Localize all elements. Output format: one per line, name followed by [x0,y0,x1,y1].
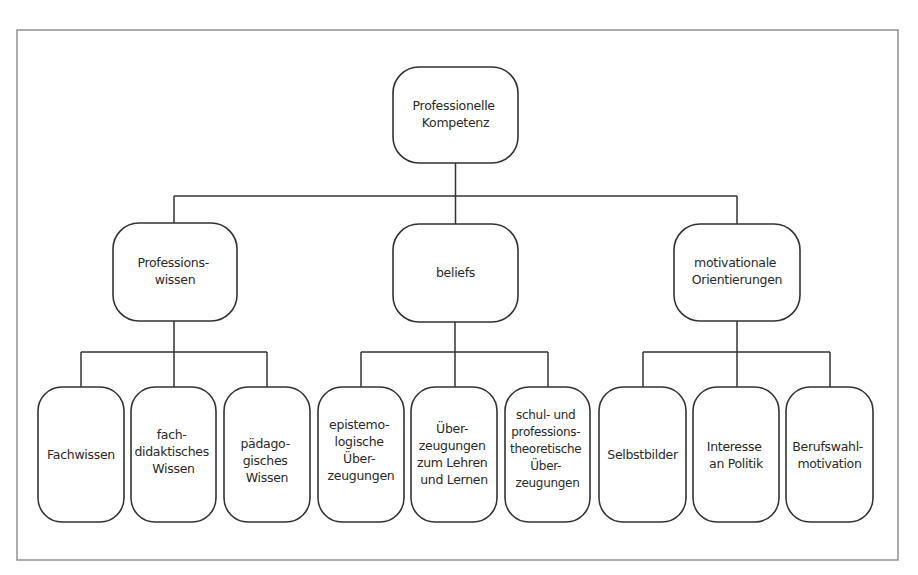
node-professionelle-kompetenz: Professionelle Kompetenz [393,67,518,163]
node-label-line: gisches [243,453,288,468]
svg-text:schul- und professions-: schul- und professions- theoretische Übe… [510,408,585,490]
node-label-line: zeugungen [419,438,486,453]
competence-model-diagram: Professionelle Kompetenz Professions- wi… [0,0,918,575]
node-interesse-an-politik: Interesse an Politik [693,387,779,522]
node-label-line: Über- [343,450,375,466]
node-professionswissen: Professions- wissen [113,223,237,321]
node-schul-professionstheoretische-ueberzeugungen: schul- und professions- theoretische Übe… [505,387,590,522]
node-beliefs: beliefs [393,224,518,322]
node-label-line: logische [335,434,385,449]
node-label-line: schul- und [516,408,575,422]
node-label-line: Professionelle [413,98,496,113]
svg-text:Fachwissen: Fachwissen [47,447,115,462]
node-fachwissen: Fachwissen [38,387,124,522]
node-label-line: wissen [155,272,196,287]
svg-text:pädago- gisches Wi: pädago- gisches Wissen [240,436,293,485]
node-label-line: Über- [530,457,561,473]
node-label-line: und Lernen [420,472,488,487]
node-berufswahlmotivation: Berufswahl- motivation [786,387,873,522]
svg-text:beliefs: beliefs [436,265,475,280]
node-paedagogisches-wissen: pädago- gisches Wissen [224,387,310,522]
node-label-line: motivationale [694,255,777,270]
node-label-line: Wissen [246,470,288,485]
node-label-line: Selbstbilder [607,447,679,462]
node-label-line: beliefs [436,265,475,280]
node-label-line: theoretische [510,442,581,456]
node-label-line: an Politik [709,456,764,471]
node-motivationale-orientierungen: motivationale Orientierungen [674,224,800,321]
node-label-line: zeugungen [328,468,395,483]
node-label-line: Professions- [137,255,208,270]
node-label-line: Über- [436,420,468,436]
node-label-line: Orientierungen [692,272,782,287]
node-label-line: Berufswahl- [792,439,863,454]
svg-text:Selbstbilder: Selbstbilder [607,447,679,462]
node-label-line: fach- [157,427,187,442]
node-label-line: Fachwissen [47,447,115,462]
node-label-line: zeugungen [515,476,579,490]
node-label-line: Interesse [707,439,762,454]
node-label-line: pädago- [240,436,289,451]
node-fachdidaktisches-wissen: fach- didaktisches Wissen [131,387,216,522]
node-label-line: Kompetenz [422,115,490,130]
node-ueberzeugungen-lehren-lernen: Über- zeugungen zum Lehren und Lernen [411,387,497,522]
node-label-line: motivation [797,456,861,471]
node-label-line: Wissen [152,461,194,476]
node-label-line: epistemo- [329,417,389,432]
node-selbstbilder: Selbstbilder [599,387,686,522]
node-label-line: didaktisches [134,444,209,459]
node-label-line: professions- [511,425,580,439]
node-epistemologische-ueberzeugungen: epistemo- logische Über- zeugungen [318,387,404,522]
node-label-line: zum Lehren [417,455,487,470]
